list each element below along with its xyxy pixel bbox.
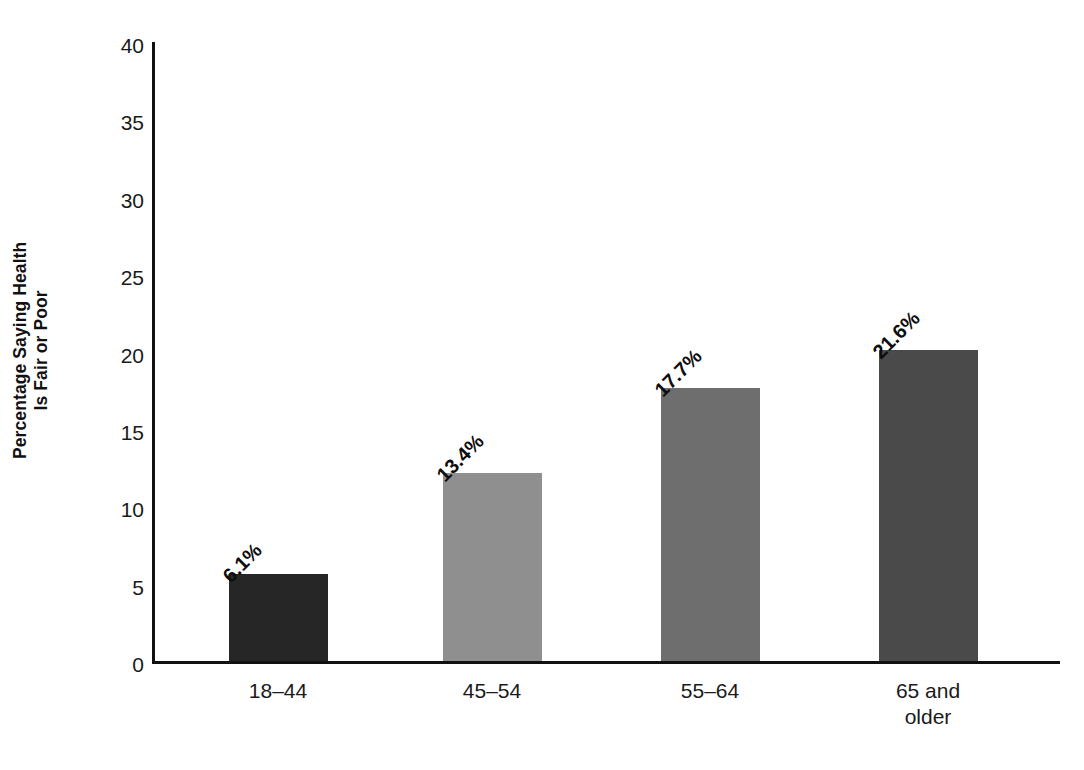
y-axis-tick-label: 0 xyxy=(98,654,144,675)
bar[interactable] xyxy=(879,350,978,661)
x-axis-category-label: 55–64 xyxy=(625,678,795,704)
x-axis-category-label: 65 andolder xyxy=(843,678,1013,731)
y-axis-line xyxy=(152,42,155,664)
bar-chart-figure: Percentage Saying Health Is Fair or Poor… xyxy=(0,0,1084,770)
y-axis-tick-label: 40 xyxy=(98,35,144,56)
x-axis-category-label-line: 65 and xyxy=(896,679,960,702)
y-axis-tick-label: 35 xyxy=(98,112,144,133)
x-axis-category-label-line: 45–54 xyxy=(463,679,521,702)
x-axis-category-label-line: 18–44 xyxy=(249,679,307,702)
y-axis-title-line2: Is Fair or Poor xyxy=(32,241,53,458)
y-axis-tick-label: 5 xyxy=(98,576,144,597)
y-axis-title-line1: Percentage Saying Health xyxy=(11,241,31,458)
x-axis-category-label: 45–54 xyxy=(407,678,577,704)
bar[interactable] xyxy=(661,388,760,661)
x-axis-category-label-line: 55–64 xyxy=(681,679,739,702)
plot-area: 6.1%13.4%17.7%21.6% xyxy=(152,42,1060,664)
y-axis-tick-label: 25 xyxy=(98,267,144,288)
x-axis-category-label-line: older xyxy=(843,704,1013,730)
bar[interactable] xyxy=(443,473,542,661)
x-axis-category-label: 18–44 xyxy=(193,678,363,704)
bar[interactable] xyxy=(229,574,328,661)
y-axis-tick-label: 30 xyxy=(98,189,144,210)
x-axis-line xyxy=(152,661,1060,664)
y-axis-title: Percentage Saying Health Is Fair or Poor xyxy=(0,0,64,700)
y-axis-tick-label: 15 xyxy=(98,421,144,442)
y-axis-tick-label: 20 xyxy=(98,344,144,365)
y-axis-tick-labels: 0510152025303540 xyxy=(86,42,144,664)
y-axis-tick-label: 10 xyxy=(98,499,144,520)
